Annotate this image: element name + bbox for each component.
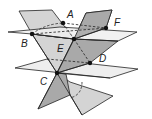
planes-diagram: A F B E D C [0,0,152,119]
label-E: E [57,43,64,54]
label-A: A [66,9,74,20]
point-A [61,21,65,25]
point-C [55,71,59,75]
point-E [72,37,76,41]
point-B [30,32,34,36]
label-B: B [21,38,28,49]
point-F [104,26,108,30]
label-D: D [99,53,106,64]
point-D [88,61,92,65]
label-F: F [114,17,121,28]
label-C: C [40,76,48,87]
